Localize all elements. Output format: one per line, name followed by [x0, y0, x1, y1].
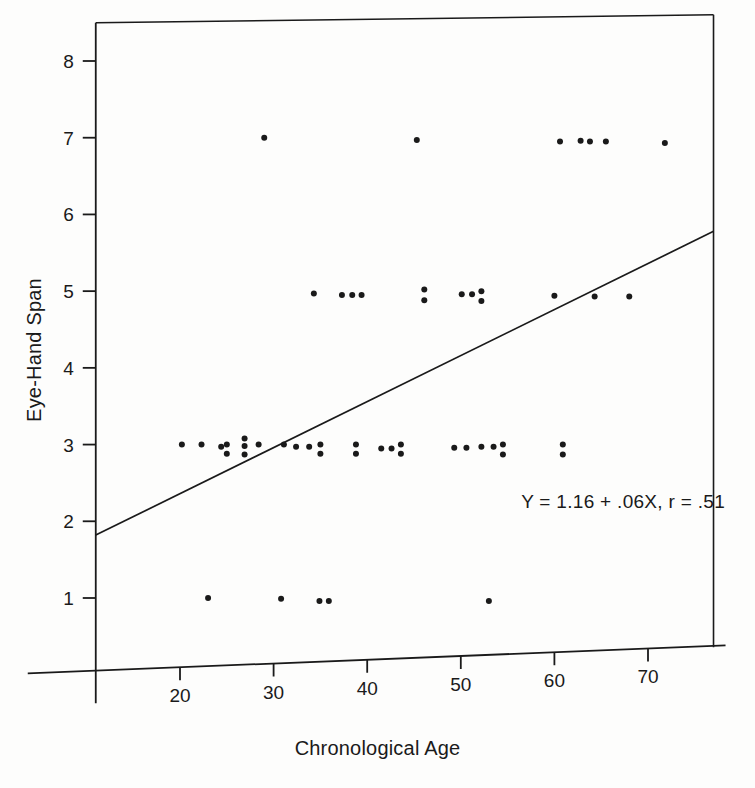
x-axis-tick-label: 30: [263, 682, 284, 703]
data-point: [218, 444, 224, 450]
data-point: [478, 444, 484, 450]
x-axis-tick-label: 40: [357, 678, 378, 699]
data-point: [560, 442, 566, 448]
x-axis-tick-label: 70: [637, 666, 658, 687]
data-point: [459, 291, 465, 297]
data-point: [500, 452, 506, 458]
data-point: [353, 451, 359, 457]
data-point: [500, 442, 506, 448]
data-point: [587, 139, 593, 145]
data-point: [478, 298, 484, 304]
x-axis-tick-label: 50: [450, 674, 471, 695]
data-point: [353, 442, 359, 448]
data-point: [317, 442, 323, 448]
y-axis-tick-label: 8: [63, 51, 74, 72]
data-point: [224, 451, 230, 457]
data-point: [349, 292, 355, 298]
data-point: [551, 293, 557, 299]
data-point: [242, 443, 248, 449]
plot-frame: [28, 15, 726, 704]
x-axis-tick-label: 20: [169, 685, 190, 706]
plot-canvas: 12345678203040506070 Y = 1.16 + .06X, r …: [0, 0, 755, 788]
data-point: [557, 139, 563, 145]
data-point: [603, 139, 609, 145]
data-point: [378, 445, 384, 451]
data-points: [179, 135, 668, 604]
y-axis-tick-label: 7: [63, 128, 74, 149]
data-point: [261, 135, 267, 141]
data-point: [256, 442, 262, 448]
y-axis-tick-label: 5: [63, 281, 74, 302]
y-axis-tick-label: 1: [63, 588, 74, 609]
data-point: [398, 442, 404, 448]
x-axis-tick-label: 60: [544, 670, 565, 691]
data-point: [592, 294, 598, 300]
data-point: [486, 598, 492, 604]
data-point: [317, 451, 323, 457]
axis-tick-labels: 12345678203040506070: [63, 51, 658, 706]
regression-equation-annotation: Y = 1.16 + .06X, r = .51: [521, 491, 725, 512]
data-point: [242, 452, 248, 458]
data-point: [463, 445, 469, 451]
data-point: [421, 297, 427, 303]
data-point: [662, 140, 668, 146]
data-point: [199, 442, 205, 448]
data-point: [326, 598, 332, 604]
data-point: [398, 451, 404, 457]
data-point: [626, 294, 632, 300]
data-point: [306, 444, 312, 450]
data-point: [469, 291, 475, 297]
x-axis-line: [28, 645, 726, 673]
data-point: [414, 137, 420, 143]
data-point: [224, 442, 230, 448]
x-axis-label: Chronological Age: [0, 737, 755, 760]
y-axis-tick-label: 6: [63, 204, 74, 225]
data-point: [293, 444, 299, 450]
data-point: [478, 288, 484, 294]
scatter-plot-figure: 12345678203040506070 Y = 1.16 + .06X, r …: [0, 0, 755, 788]
data-point: [339, 292, 345, 298]
frame-top-edge: [96, 15, 714, 23]
y-axis-tick-label: 2: [63, 511, 74, 532]
data-point: [278, 596, 284, 602]
regression-equation-text: Y = 1.16 + .06X, r = .51: [521, 491, 725, 512]
data-point: [242, 435, 248, 441]
regression-line: [96, 231, 714, 535]
data-point: [389, 445, 395, 451]
data-point: [491, 444, 497, 450]
data-point: [578, 138, 584, 144]
data-point: [451, 445, 457, 451]
data-point: [560, 452, 566, 458]
y-axis-tick-label: 3: [63, 435, 74, 456]
y-axis-tick-label: 4: [63, 358, 74, 379]
data-point: [421, 287, 427, 293]
data-point: [311, 290, 317, 296]
data-point: [359, 292, 365, 298]
data-point: [281, 442, 287, 448]
data-point: [179, 442, 185, 448]
data-point: [205, 595, 211, 601]
data-point: [316, 598, 322, 604]
regression-trend-line: [96, 231, 714, 535]
axis-ticks: [83, 61, 648, 680]
